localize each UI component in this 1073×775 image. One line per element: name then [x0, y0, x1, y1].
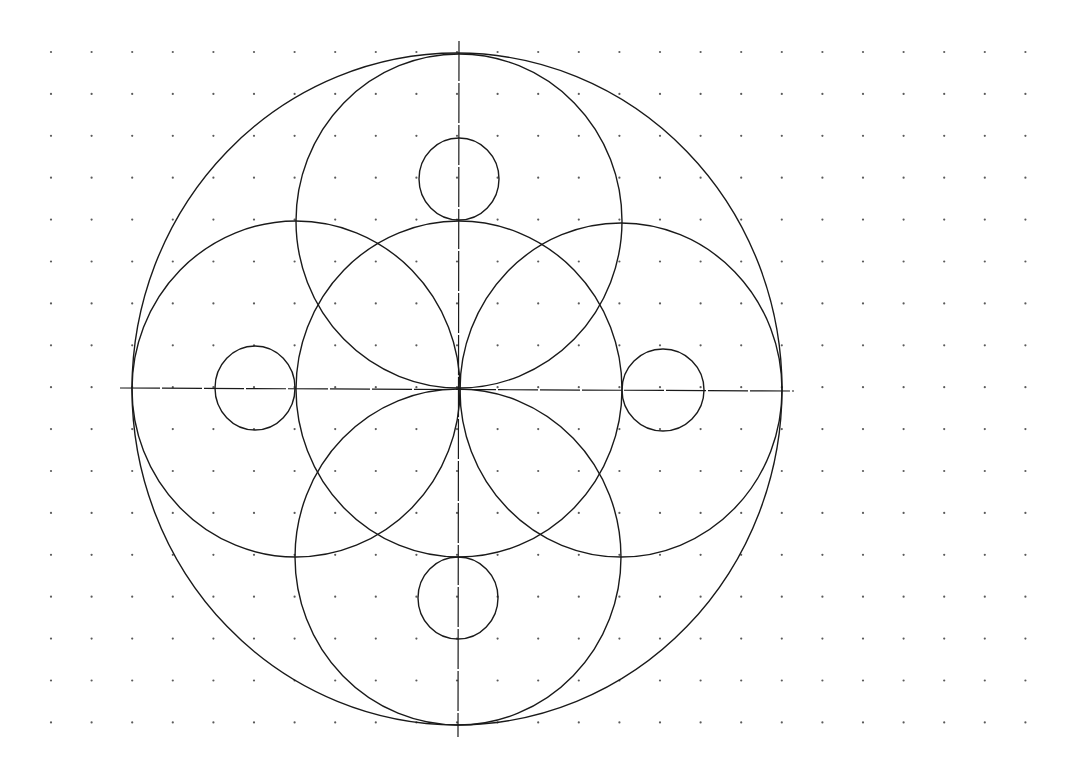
grid-dot	[862, 135, 864, 137]
grid-dot	[1024, 135, 1026, 137]
grid-dot	[172, 428, 174, 430]
grid-dot	[781, 177, 783, 179]
grid-dot	[618, 177, 620, 179]
grid-dot	[903, 219, 905, 221]
grid-dot	[578, 679, 580, 681]
grid-dot	[253, 302, 255, 304]
grid-dot	[1024, 721, 1026, 723]
grid-dot	[700, 512, 702, 514]
grid-dot	[212, 428, 214, 430]
grid-dot	[862, 679, 864, 681]
dot-grid	[50, 51, 1027, 724]
grid-dot	[821, 219, 823, 221]
grid-dot	[497, 219, 499, 221]
grid-dot	[984, 177, 986, 179]
grid-dot	[984, 596, 986, 598]
grid-dot	[212, 512, 214, 514]
grid-dot	[91, 219, 93, 221]
grid-dot	[943, 260, 945, 262]
grid-dot	[131, 679, 133, 681]
grid-dot	[50, 260, 52, 262]
grid-dot	[212, 596, 214, 598]
grid-dot	[294, 721, 296, 723]
grid-dot	[375, 51, 377, 53]
grid-dot	[700, 596, 702, 598]
grid-dot	[537, 260, 539, 262]
grid-dot	[618, 721, 620, 723]
grid-dot	[212, 51, 214, 53]
grid-dot	[537, 428, 539, 430]
grid-dot	[903, 596, 905, 598]
grid-dot	[984, 554, 986, 556]
grid-dot	[903, 344, 905, 346]
grid-dot	[984, 93, 986, 95]
grid-dot	[1024, 386, 1026, 388]
grid-dot	[903, 135, 905, 137]
grid-dot	[1024, 596, 1026, 598]
grid-dot	[334, 428, 336, 430]
grid-dot	[1024, 428, 1026, 430]
grid-dot	[50, 679, 52, 681]
grid-dot	[537, 93, 539, 95]
grid-dot	[903, 260, 905, 262]
grid-dot	[781, 554, 783, 556]
grid-dot	[821, 721, 823, 723]
grid-dot	[253, 51, 255, 53]
grid-dot	[172, 596, 174, 598]
grid-dot	[415, 302, 417, 304]
grid-dot	[618, 51, 620, 53]
grid-dot	[781, 596, 783, 598]
grid-dot	[253, 554, 255, 556]
grid-dot	[943, 470, 945, 472]
grid-dot	[862, 721, 864, 723]
grid-dot	[1024, 470, 1026, 472]
grid-dot	[618, 512, 620, 514]
grid-dot	[172, 219, 174, 221]
grid-dot	[415, 135, 417, 137]
grid-dot	[131, 638, 133, 640]
grid-dot	[334, 219, 336, 221]
grid-dot	[375, 135, 377, 137]
grid-dot	[862, 554, 864, 556]
grid-dot	[821, 386, 823, 388]
grid-dot	[821, 177, 823, 179]
grid-dot	[375, 554, 377, 556]
grid-dot	[659, 721, 661, 723]
grid-dot	[131, 135, 133, 137]
grid-dot	[497, 638, 499, 640]
grid-dot	[497, 93, 499, 95]
grid-dot	[497, 470, 499, 472]
grid-dot	[781, 302, 783, 304]
grid-dot	[50, 638, 52, 640]
grid-dot	[943, 596, 945, 598]
grid-dot	[334, 93, 336, 95]
grid-dot	[294, 135, 296, 137]
grid-dot	[1024, 638, 1026, 640]
grid-dot	[172, 51, 174, 53]
grid-dot	[903, 51, 905, 53]
grid-dot	[578, 512, 580, 514]
grid-dot	[781, 470, 783, 472]
grid-dot	[659, 260, 661, 262]
grid-dot	[131, 428, 133, 430]
grid-dot	[700, 554, 702, 556]
grid-dot	[618, 428, 620, 430]
grid-dot	[943, 512, 945, 514]
grid-dot	[375, 721, 377, 723]
grid-dot	[1024, 177, 1026, 179]
drawing-canvas[interactable]	[0, 0, 1073, 775]
grid-dot	[700, 679, 702, 681]
grid-dot	[131, 302, 133, 304]
grid-dot	[740, 679, 742, 681]
grid-dot	[943, 638, 945, 640]
grid-dot	[456, 260, 458, 262]
grid-dot	[578, 177, 580, 179]
grid-dot	[1024, 344, 1026, 346]
grid-dot	[659, 679, 661, 681]
grid-dot	[212, 302, 214, 304]
grid-dot	[659, 512, 661, 514]
grid-dot	[456, 428, 458, 430]
grid-dot	[294, 93, 296, 95]
grid-dot	[740, 344, 742, 346]
grid-dot	[984, 344, 986, 346]
